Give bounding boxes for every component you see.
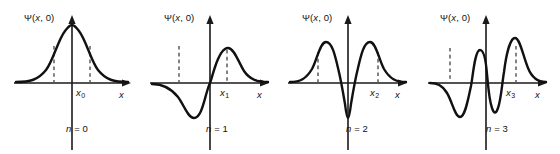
quantum-number-label-n2: n = 2 <box>346 124 368 134</box>
wavefunction-curve-n3 <box>430 38 546 117</box>
y-axis-arrow-n0 <box>68 15 75 24</box>
y-axis-arrow-n1 <box>206 15 213 24</box>
quantum-number-label-n1: n = 1 <box>206 124 228 134</box>
y-axis-label-n3: Ψ(x, 0) <box>440 13 470 23</box>
y-axis-arrow-n2 <box>344 15 351 24</box>
x-marker-label-n2: x2 <box>370 88 379 98</box>
x-marker-label-n3: x3 <box>506 88 515 98</box>
x-axis-label-n3: x <box>535 90 540 100</box>
panel-n1: Ψ(x, 0) x x1 n = 1 <box>140 0 280 154</box>
y-axis-arrow-n3 <box>482 15 489 24</box>
wavefunction-figure: Ψ(x, 0) x x0 n = 0 Ψ(x, 0) x x1 n = 1 <box>0 0 560 154</box>
x-axis-label-n1: x <box>257 90 262 100</box>
x-marker-label-n1: x1 <box>220 88 229 98</box>
quantum-number-label-n3: n = 3 <box>486 124 508 134</box>
y-axis-label-n2: Ψ(x, 0) <box>302 13 332 23</box>
y-axis-label-n0: Ψ(x, 0) <box>24 13 54 23</box>
x-marker-label-n0: x0 <box>76 88 85 98</box>
y-axis-label-n1: Ψ(x, 0) <box>164 13 194 23</box>
panel-n2: Ψ(x, 0) x x2 n = 2 <box>280 0 420 154</box>
x-axis-label-n0: x <box>119 90 124 100</box>
panel-n3: Ψ(x, 0) x x3 n = 3 <box>420 0 560 154</box>
x-axis-label-n2: x <box>395 90 400 100</box>
panel-n0: Ψ(x, 0) x x0 n = 0 <box>0 0 140 154</box>
quantum-number-label-n0: n = 0 <box>66 124 88 134</box>
